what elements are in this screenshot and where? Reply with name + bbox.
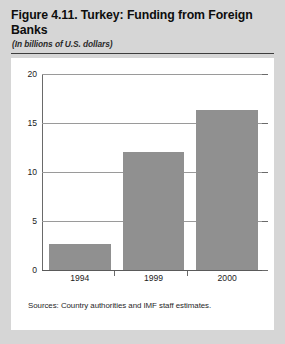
title-divider bbox=[11, 53, 274, 54]
y-tickmark-5 bbox=[262, 221, 268, 222]
y-tickmark-15 bbox=[262, 123, 268, 124]
y-tick-label-10: 10 bbox=[27, 167, 37, 177]
figure-subtitle: (In billions of U.S. dollars) bbox=[12, 39, 274, 49]
bar-slot-2000 bbox=[196, 74, 258, 270]
chart-panel: 20 15 10 5 0 bbox=[11, 58, 274, 330]
bar-slot-1999 bbox=[123, 74, 185, 270]
source-note: Sources: Country authorities and IMF sta… bbox=[28, 301, 262, 310]
figure-container: Figure 4.11. Turkey: Funding from Foreig… bbox=[0, 0, 285, 344]
y-tick-label-0: 0 bbox=[32, 265, 37, 275]
x-tick-label-1999: 1999 bbox=[123, 273, 185, 283]
bar-1999[interactable] bbox=[123, 152, 185, 270]
x-tick-label-1994: 1994 bbox=[49, 273, 111, 283]
y-tickmark-20 bbox=[262, 74, 268, 75]
y-tick-label-15: 15 bbox=[27, 118, 37, 128]
plot-area: 20 15 10 5 0 bbox=[42, 74, 262, 270]
figure-title: Figure 4.11. Turkey: Funding from Foreig… bbox=[11, 8, 274, 37]
bar-group bbox=[43, 74, 262, 270]
bar-slot-1994 bbox=[49, 74, 111, 270]
y-tickmark-10 bbox=[262, 172, 268, 173]
x-axis-labels: 1994 1999 2000 bbox=[43, 273, 262, 283]
y-tick-label-20: 20 bbox=[27, 69, 37, 79]
x-tick-label-2000: 2000 bbox=[196, 273, 258, 283]
bar-1994[interactable] bbox=[49, 244, 111, 270]
bar-2000[interactable] bbox=[196, 110, 258, 270]
gridline-0: 0 bbox=[42, 270, 262, 271]
y-tick-label-5: 5 bbox=[32, 216, 37, 226]
y-tickmark-0 bbox=[262, 270, 268, 271]
